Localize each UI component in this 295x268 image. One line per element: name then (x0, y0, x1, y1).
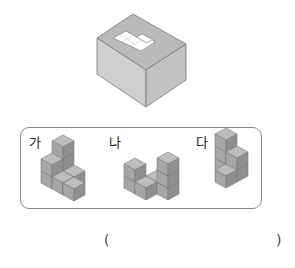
option-ga-cubes[interactable] (41, 135, 85, 201)
option-na-cubes[interactable] (124, 152, 179, 200)
cube-options-figures (0, 0, 295, 268)
answer-open-paren: ( (104, 232, 109, 248)
option-da-cubes[interactable] (215, 128, 248, 188)
answer-close-paren: ) (276, 232, 281, 248)
answer-blank[interactable] (120, 232, 270, 250)
